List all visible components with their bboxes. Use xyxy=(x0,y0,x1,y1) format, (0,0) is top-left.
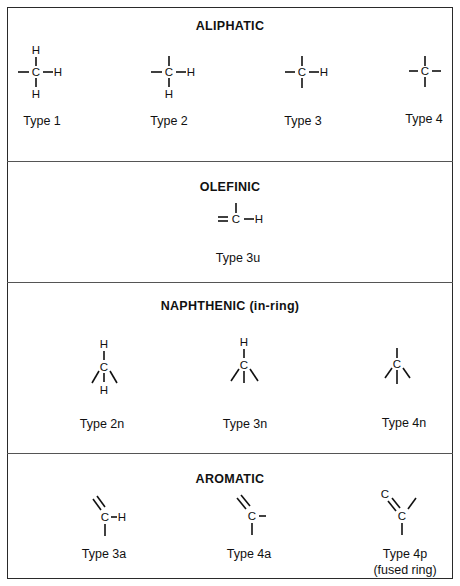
label-type-4p-sublabel: (fused ring) xyxy=(360,562,450,578)
svg-text:H: H xyxy=(165,88,173,100)
svg-text:H: H xyxy=(320,66,328,78)
label-type-3u: Type 3u xyxy=(193,250,283,266)
svg-text:H: H xyxy=(100,338,108,350)
label-type-3: Type 3 xyxy=(258,113,348,129)
label-type-3a: Type 3a xyxy=(59,546,149,562)
svg-text:C: C xyxy=(32,66,40,78)
svg-text:C: C xyxy=(165,66,173,78)
structure-type-4p: C C xyxy=(381,488,416,535)
svg-text:C: C xyxy=(232,213,240,225)
structure-type-3n: H C xyxy=(231,336,258,383)
svg-text:C: C xyxy=(393,358,401,370)
structure-type-4: C xyxy=(409,56,441,87)
svg-text:C: C xyxy=(298,66,306,78)
structure-type-2n: H C H xyxy=(92,338,117,396)
label-type-2n: Type 2n xyxy=(57,416,147,432)
svg-text:C: C xyxy=(101,511,109,523)
svg-text:C: C xyxy=(398,510,406,522)
structure-type-2: C H H xyxy=(151,56,195,100)
svg-text:H: H xyxy=(255,213,263,225)
svg-text:H: H xyxy=(240,336,248,348)
svg-text:C: C xyxy=(240,359,248,371)
svg-text:H: H xyxy=(187,66,195,78)
svg-text:C: C xyxy=(248,510,256,522)
svg-text:C: C xyxy=(381,488,389,500)
structure-type-1: H C H H xyxy=(18,44,62,100)
label-type-2: Type 2 xyxy=(124,113,214,129)
structure-type-3: C H xyxy=(285,56,328,88)
svg-text:C: C xyxy=(100,361,108,373)
label-type-4: Type 4 xyxy=(379,111,460,127)
svg-text:H: H xyxy=(100,384,108,396)
label-type-4a: Type 4a xyxy=(204,546,294,562)
structure-type-4a: C xyxy=(237,495,266,535)
svg-text:H: H xyxy=(32,44,40,56)
svg-text:H: H xyxy=(32,88,40,100)
structure-drawings: H C H H C H H C H C C xyxy=(0,0,460,586)
label-type-4p: Type 4p xyxy=(360,546,450,562)
structure-type-3a: C H xyxy=(93,496,126,536)
svg-text:H: H xyxy=(118,511,126,523)
structure-type-3u: C H xyxy=(218,203,263,225)
svg-text:C: C xyxy=(421,65,429,77)
label-type-3n: Type 3n xyxy=(200,416,290,432)
structure-type-4n: C xyxy=(385,348,410,384)
label-type-4n: Type 4n xyxy=(359,415,449,431)
label-type-1: Type 1 xyxy=(0,113,87,129)
svg-text:H: H xyxy=(54,66,62,78)
